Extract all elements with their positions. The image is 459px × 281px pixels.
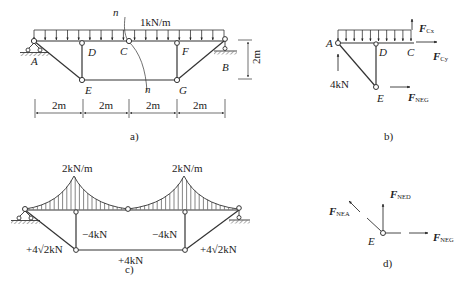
distributed-load-b xyxy=(338,30,411,41)
roller-support-B xyxy=(214,41,237,55)
load-label-left-c: 2kN/m xyxy=(62,162,93,174)
node-label-E-b: E xyxy=(376,92,384,104)
height-dim-label: 2m xyxy=(250,50,262,65)
span-label-3: 2m xyxy=(146,99,161,111)
caption-d: d) xyxy=(383,257,393,270)
node-label-B: B xyxy=(222,61,229,73)
span-label-2: 2m xyxy=(99,99,114,111)
figure-a-labels: n 1kN/m A D C F B E n G 2m 2m 2m 2m 2m a… xyxy=(30,6,262,143)
joint-D-b xyxy=(374,42,378,46)
node-label-D: D xyxy=(87,46,96,58)
joint-D xyxy=(80,41,85,46)
joint-G xyxy=(174,77,179,82)
node-label-C: C xyxy=(120,45,128,57)
load-label-right-c: 2kN/m xyxy=(172,162,203,174)
caption-a: a) xyxy=(130,130,139,143)
node-label-E-d: E xyxy=(367,235,375,247)
force-DE-label: −4kN xyxy=(82,228,107,240)
joint-F-c xyxy=(183,210,187,214)
span-label-1: 2m xyxy=(52,99,67,111)
caption-b: b) xyxy=(384,130,394,143)
force-Fneg-label: FNEG xyxy=(407,91,429,103)
figure-d-labels: FNED FNEA FNEG E d) xyxy=(328,188,454,270)
joint-B xyxy=(223,37,228,42)
force-NEG-label: FNEG xyxy=(432,231,454,243)
joint-A xyxy=(31,38,36,43)
force-Fcy-label: FCy xyxy=(432,50,449,62)
joint-E-b xyxy=(374,85,379,90)
reaction-A-label: 4kN xyxy=(330,78,349,90)
section-label-n-top: n xyxy=(113,6,119,18)
joint-B-c xyxy=(237,206,242,211)
joint-D-c xyxy=(74,210,78,214)
force-Fcx-label: FCx xyxy=(418,22,435,34)
node-label-A: A xyxy=(30,55,38,67)
force-NEA-arrow xyxy=(349,201,360,212)
joint-G-c xyxy=(183,248,188,253)
force-AE-label: +4√2kN xyxy=(26,243,63,255)
joint-E-c xyxy=(74,248,79,253)
node-label-F: F xyxy=(181,45,189,57)
section-cut-nn xyxy=(124,17,147,92)
joint-A-b xyxy=(336,41,341,46)
force-NEA-label: FNEA xyxy=(328,205,350,217)
figure-c-labels: 2kN/m 2kN/m −4kN −4kN +4√2kN +4√2kN +4kN… xyxy=(26,162,237,276)
force-BG-label: +4√2kN xyxy=(200,243,237,255)
joint-A-c xyxy=(23,207,28,212)
joint-F xyxy=(175,41,180,46)
force-NEA-shaft xyxy=(367,218,381,231)
joint-E xyxy=(79,77,84,82)
joint-C xyxy=(126,38,131,43)
force-NED-label: FNED xyxy=(389,188,411,200)
node-label-A-b: A xyxy=(325,37,333,49)
load-label-a: 1kN/m xyxy=(140,16,171,28)
caption-c: c) xyxy=(125,263,134,276)
node-label-D-b: D xyxy=(378,46,387,58)
joint-E-d xyxy=(381,231,386,236)
force-FG-label: −4kN xyxy=(152,228,177,240)
truss-diagram-canvas: n 1kN/m A D C F B E n G 2m 2m 2m 2m 2m a… xyxy=(0,0,459,281)
roller-support-B-c xyxy=(229,210,250,224)
node-label-C-b: C xyxy=(407,46,415,58)
span-label-4: 2m xyxy=(193,99,208,111)
joint-C-c xyxy=(126,207,131,212)
section-label-n-bottom: n xyxy=(145,83,151,95)
node-label-E: E xyxy=(84,84,92,96)
pin-support-A-c xyxy=(11,211,40,224)
figure-c xyxy=(11,176,250,252)
member-AE xyxy=(34,41,82,80)
node-label-G: G xyxy=(179,84,187,96)
figure-d xyxy=(349,201,428,236)
